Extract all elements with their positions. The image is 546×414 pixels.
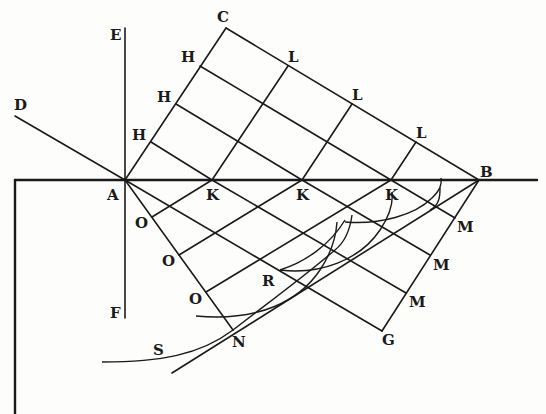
- line-k3-m1: [391, 180, 455, 218]
- label-c: C: [217, 8, 229, 26]
- label-a: A: [106, 186, 119, 204]
- arc-s-through-n: [102, 215, 352, 362]
- label-k2: K: [296, 186, 310, 204]
- label-h3: H: [132, 126, 146, 144]
- point-labels: C E D A B F G N R S H H H L L L K K K O …: [14, 8, 493, 359]
- label-d: D: [14, 96, 27, 114]
- label-m1: M: [457, 218, 474, 236]
- label-l1: L: [288, 48, 299, 66]
- label-f: F: [110, 304, 121, 322]
- incident-ray-da: [15, 116, 125, 180]
- label-m3: M: [409, 293, 426, 311]
- label-m2: M: [433, 256, 450, 274]
- label-e: E: [110, 26, 121, 44]
- line-l2-k2: [302, 104, 352, 180]
- incident-wave-grid: [125, 28, 479, 180]
- label-o2: O: [162, 252, 175, 270]
- line-k1-o1: [152, 180, 212, 217]
- line-h3-k3: [200, 66, 391, 180]
- label-s: S: [153, 341, 164, 359]
- label-k1: K: [206, 186, 220, 204]
- line-k2-o2: [179, 180, 302, 255]
- label-h1: H: [181, 48, 195, 66]
- label-r: R: [262, 272, 275, 290]
- label-b: B: [480, 163, 493, 181]
- refraction-diagram: C E D A B F G N R S H H H L L L K K K O …: [0, 0, 546, 414]
- label-l2: L: [352, 86, 363, 104]
- label-n: N: [232, 333, 246, 351]
- line-h1-k1: [151, 142, 212, 180]
- label-o3: O: [189, 290, 202, 308]
- label-k3: K: [385, 186, 399, 204]
- line-l3-k3: [391, 142, 416, 180]
- label-h2: H: [157, 88, 171, 106]
- line-l1-k1: [212, 66, 288, 180]
- label-g: G: [382, 331, 395, 349]
- label-o1: O: [135, 214, 148, 232]
- label-l3: L: [416, 124, 427, 142]
